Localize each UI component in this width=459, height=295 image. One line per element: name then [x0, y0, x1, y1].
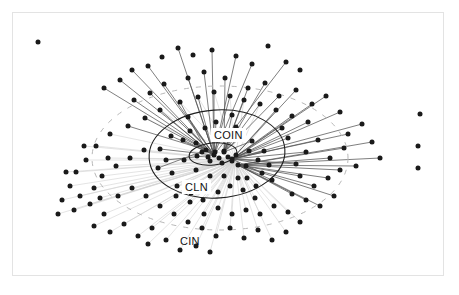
graph-node-isolated [160, 55, 165, 60]
graph-node-cin [242, 98, 247, 103]
graph-node-hub [236, 163, 241, 168]
network-canvas [0, 0, 459, 295]
graph-node-cin [200, 226, 205, 231]
graph-node-cin [84, 158, 89, 163]
graph-node-cln [253, 196, 258, 201]
graph-node-cin [286, 136, 291, 141]
graph-node-cin [258, 102, 263, 107]
graph-node-cin [258, 212, 263, 217]
graph-node-cin [338, 110, 343, 115]
graph-node-cin [94, 144, 99, 149]
graph-node-cin [68, 184, 73, 189]
graph-node-cin [228, 94, 233, 99]
graph-node-cin [286, 210, 291, 215]
graph-node-cln [228, 184, 233, 189]
graph-node-cin [144, 194, 149, 199]
graph-node-cin [370, 140, 375, 145]
network-figure: COINCLNCIN [0, 0, 459, 295]
graph-edge-dark [160, 110, 206, 150]
graph-node-cln [244, 164, 249, 169]
graph-node-cin [332, 194, 337, 199]
graph-node-cln [222, 174, 227, 179]
graph-node-cin [228, 226, 233, 231]
graph-node-cln [164, 158, 169, 163]
graph-node-cln [216, 190, 221, 195]
graph-node-cln [230, 113, 235, 118]
graph-node-cin [277, 94, 282, 99]
graph-node-cin [148, 91, 153, 96]
graph-node-cin [108, 230, 113, 235]
graph-node-isolated [416, 166, 421, 171]
graph-node-cln [256, 158, 261, 163]
graph-node-cln [175, 184, 180, 189]
graph-node-cin [146, 242, 151, 247]
graph-node-cin [78, 194, 83, 199]
graph-node-cin [294, 162, 299, 167]
graph-node-coin [208, 159, 213, 164]
graph-node-cin [263, 81, 268, 86]
graph-node-cin [130, 186, 135, 191]
graph-node-cin [242, 236, 247, 241]
graph-node-cin [114, 164, 119, 169]
graph-node-cin [208, 250, 213, 255]
graph-node-cin [304, 150, 309, 155]
graph-node-cin [298, 174, 303, 179]
graph-node-cin [158, 108, 163, 113]
graph-node-cin [342, 146, 347, 151]
graph-node-cin [284, 230, 289, 235]
graph-node-cln [186, 115, 191, 120]
graph-node-cin [244, 208, 249, 213]
graph-node-cin [130, 68, 135, 73]
graph-node-cin [178, 248, 183, 253]
graph-node-cin [176, 46, 181, 51]
graph-node-cin [250, 62, 255, 67]
graph-node-isolated [418, 112, 423, 117]
region-label-cin: CIN [177, 234, 203, 248]
graph-node-cln [260, 171, 265, 176]
graph-node-cin [64, 170, 69, 175]
graph-node-hub [204, 148, 209, 153]
graph-node-cin [210, 48, 215, 53]
graph-node-cin [164, 238, 169, 243]
graph-node-cin [186, 76, 191, 81]
graph-node-cin [212, 90, 217, 95]
graph-node-cin [202, 70, 207, 75]
graph-node-cin [106, 156, 111, 161]
graph-node-cin [270, 238, 275, 243]
graph-node-coin [217, 156, 222, 161]
graph-node-cin [246, 86, 251, 91]
graph-node-cin [92, 224, 97, 229]
graph-node-cln [203, 126, 208, 131]
graph-node-cin [102, 212, 107, 217]
graph-node-coin [220, 161, 225, 166]
graph-node-cin [98, 196, 103, 201]
graph-node-cin [72, 208, 77, 213]
graph-node-cin [354, 164, 359, 169]
graph-node-cln [214, 120, 219, 125]
graph-node-cin [56, 212, 61, 217]
graph-node-cin [312, 184, 317, 189]
graph-node-cln [241, 188, 246, 193]
graph-node-cin [108, 132, 113, 137]
graph-node-isolated-group [36, 40, 423, 171]
graph-node-cin [132, 98, 137, 103]
graph-node-cln [250, 139, 255, 144]
graph-node-cin [306, 120, 311, 125]
graph-node-cin [100, 174, 105, 179]
graph-node-cin [118, 78, 123, 83]
graph-node-cln [208, 174, 213, 179]
graph-node-cln [262, 149, 267, 154]
graph-node-cin [143, 116, 148, 121]
graph-node-cin [328, 156, 333, 161]
graph-node-cln [156, 166, 161, 171]
graph-node-cin [142, 148, 147, 153]
graph-node-cin [146, 64, 151, 69]
graph-node-cin [196, 95, 201, 100]
graph-node-cin [216, 206, 221, 211]
graph-node-coin [234, 153, 239, 158]
graph-node-cin [223, 76, 228, 81]
graph-node-cln [245, 176, 250, 181]
graph-node-cin [174, 194, 179, 199]
graph-edge-light [94, 160, 235, 226]
graph-node-cln [169, 134, 174, 139]
